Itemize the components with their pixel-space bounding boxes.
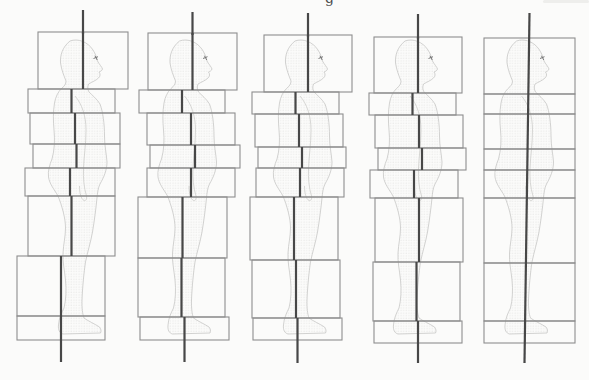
posture-figure-4 — [369, 14, 466, 363]
page-edge-artifact — [543, 0, 589, 3]
posture-figure-5 — [484, 13, 575, 363]
cropped-caption-remnant: g — [325, 0, 334, 6]
human-silhouette — [383, 40, 442, 334]
human-silhouette — [158, 40, 217, 334]
posture-diagram: g — [0, 0, 589, 380]
diagram-canvas — [0, 0, 589, 380]
posture-figure-3 — [250, 13, 352, 363]
posture-figure-2 — [138, 12, 240, 362]
human-silhouette — [495, 40, 554, 334]
human-silhouette — [273, 40, 332, 334]
posture-figure-1 — [17, 10, 128, 362]
human-silhouette — [48, 40, 107, 334]
